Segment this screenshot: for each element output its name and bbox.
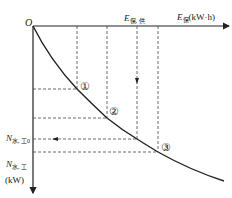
diagram-canvas [0,0,232,198]
y-marker-label: N水, 工0 [6,134,30,144]
x-marker-subscript: 保, 供 [130,18,145,24]
storage-curve [33,26,224,181]
point-label-1: ① [80,81,90,92]
left-arrow-icon [52,137,58,141]
x-axis-unit: (kW·h) [189,12,216,22]
x-axis-label: E保(kW·h) [177,13,215,23]
y-axis-label: N水, 工 [6,160,27,170]
origin-label: O [25,18,32,28]
y-axis-subscript: 水, 工 [12,164,27,170]
down-arrow-icon [135,78,139,84]
point-label-2: ② [109,106,119,117]
y-axis-unit: (kW) [5,176,24,185]
y-marker-subscript: 水, 工0 [12,138,30,144]
point-label-3: ③ [161,142,171,153]
x-marker-label: E保, 供 [124,14,145,24]
